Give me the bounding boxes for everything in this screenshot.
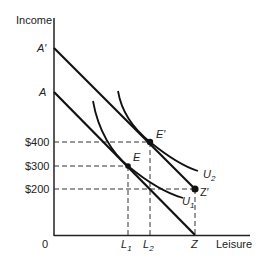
x-tick-Z: Z: [190, 238, 199, 250]
x-axis-label: Leisure: [216, 238, 252, 250]
label-U2: U2: [203, 168, 216, 183]
point-E: [125, 163, 131, 169]
x-tick-L1: L1: [121, 238, 132, 253]
point-Z-prime: [191, 185, 198, 192]
label-A: A: [38, 86, 46, 98]
label-Z-prime: Z′: [200, 186, 209, 198]
budget-line-A-prime: [54, 48, 195, 189]
x-tick-L2: L2: [143, 238, 154, 253]
label-U1: U1: [182, 195, 194, 210]
y-tick-300: $300: [25, 160, 49, 172]
y-axis-label: Income: [16, 14, 52, 26]
label-E: E: [133, 151, 141, 163]
label-A-prime: A′: [36, 42, 47, 54]
guide-lines: [54, 142, 195, 235]
y-tick-400: $400: [25, 136, 49, 148]
indifference-curve-U1: [93, 101, 183, 198]
origin-label: 0: [42, 238, 48, 250]
label-E-prime: E′: [156, 128, 166, 140]
income-leisure-diagram: Income Leisure 0 A′ A $400 $300 $200 L1 …: [0, 0, 268, 263]
point-E-prime: [147, 139, 153, 145]
y-tick-200: $200: [25, 183, 49, 195]
